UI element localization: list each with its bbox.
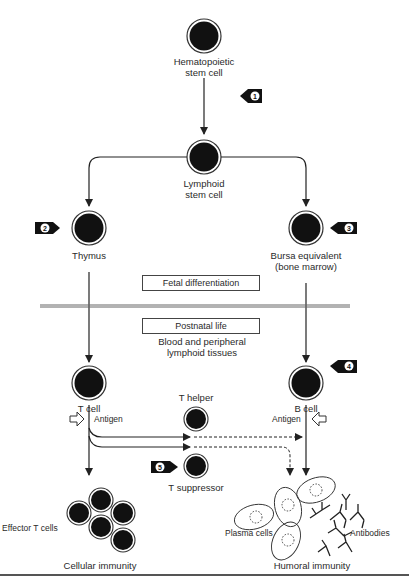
label-effector: Effector T cells (2, 523, 58, 534)
t-cell (72, 366, 106, 400)
thymus-cell (72, 211, 106, 245)
label-hematopoietic: Hematopoieticstem cell (154, 56, 254, 78)
antigen-arrow-left-icon (70, 412, 84, 426)
b-cell (289, 366, 323, 400)
svg-text:1: 1 (253, 93, 257, 100)
hematopoietic-stem-cell (187, 19, 221, 53)
label-antibodies: Antibodies (350, 528, 390, 539)
marker-3-icon: 3 (330, 222, 357, 234)
label-lymphoid-line1: Lymphoid (184, 178, 225, 189)
marker-2-icon: 2 (35, 222, 60, 234)
effector-cell-1 (89, 488, 113, 512)
label-tsuppressor: T suppressor (156, 482, 236, 493)
t-helper-cell (184, 407, 208, 431)
label-blood-line1: Blood and peripheral (158, 336, 246, 347)
label-humoral-immunity: Humoral immunity (262, 560, 362, 571)
label-hematopoietic-line2: stem cell (185, 67, 222, 78)
label-hematopoietic-line1: Hematopoietic (174, 56, 235, 67)
marker-1-icon: 1 (240, 89, 262, 103)
effector-cell-2 (67, 501, 91, 525)
box-fetal-differentiation: Fetal differentiation (142, 275, 260, 291)
label-lymphoid: Lymphoidstem cell (154, 178, 254, 200)
antigen-arrow-right-icon (312, 412, 326, 426)
svg-text:4: 4 (347, 363, 351, 370)
effector-cell-5 (111, 528, 135, 552)
label-bursa-line2: (bone marrow) (275, 261, 337, 272)
t-suppressor-cell (184, 454, 208, 478)
plasma-cells (232, 472, 339, 565)
label-blood-tissues: Blood and peripherallymphoid tissues (144, 336, 260, 358)
svg-text:5: 5 (158, 464, 162, 471)
label-antigen-left: Antigen (94, 414, 123, 425)
svg-text:2: 2 (43, 225, 47, 232)
marker-5-icon: 5 (151, 461, 178, 473)
svg-text:3: 3 (347, 225, 351, 232)
label-bursa: Bursa equivalent(bone marrow) (256, 250, 356, 272)
label-thelper: T helper (166, 392, 226, 403)
label-thymus: Thymus (49, 250, 129, 261)
label-bursa-line1: Bursa equivalent (271, 250, 342, 261)
dashed-suppress (194, 447, 290, 475)
label-cellular-immunity: Cellular immunity (50, 560, 150, 571)
bursa-cell (289, 211, 323, 245)
marker-4-icon: 4 (330, 360, 357, 373)
label-tcell: T cell (59, 403, 119, 414)
arrow-to-tsuppressor (89, 436, 190, 447)
arrow-to-thelper (89, 428, 190, 437)
box-postnatal-life: Postnatal life (142, 318, 260, 334)
effector-cell-4 (89, 515, 113, 539)
label-plasma: Plasma cells (225, 528, 273, 539)
label-antigen-right: Antigen (272, 414, 301, 425)
label-lymphoid-line2: stem cell (185, 189, 222, 200)
lymphoid-stem-cell (187, 140, 221, 174)
label-bcell: B cell (276, 403, 336, 414)
label-blood-line2: lymphoid tissues (167, 347, 237, 358)
effector-cell-3 (111, 501, 135, 525)
antibodies-icon (310, 494, 364, 556)
